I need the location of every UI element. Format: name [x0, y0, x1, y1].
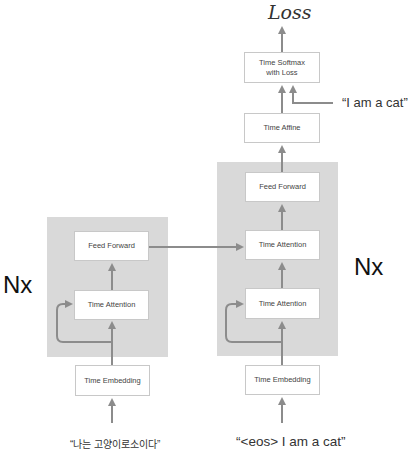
encoder-input-text: “나는 고양이로소이다” — [70, 436, 160, 451]
encoder-time-attention-box: Time Attention — [74, 290, 149, 320]
decoder-feed-forward-box: Feed Forward — [245, 172, 320, 202]
encoder-repeat-label: Nx — [3, 271, 32, 299]
softmax-label-line2: with Loss — [266, 68, 297, 77]
time-affine-box: Time Affine — [244, 113, 320, 143]
connection-arrows — [0, 0, 413, 452]
decoder-time-embedding-box: Time Embedding — [245, 365, 320, 395]
encoder-feed-forward-box: Feed Forward — [74, 231, 149, 261]
softmax-label-line1: Time Softmax — [259, 58, 305, 67]
encoder-time-embedding-box: Time Embedding — [75, 365, 150, 396]
decoder-repeat-label: Nx — [354, 253, 383, 281]
decoder-self-attention-box: Time Attention — [245, 288, 320, 319]
target-text: “I am a cat” — [342, 95, 408, 110]
decoder-cross-attention-box: Time Attention — [245, 230, 320, 260]
decoder-input-text: “<eos> I am a cat” — [236, 434, 346, 449]
time-softmax-with-loss-box: Time Softmax with Loss — [244, 52, 320, 83]
loss-label: Loss — [268, 1, 312, 23]
